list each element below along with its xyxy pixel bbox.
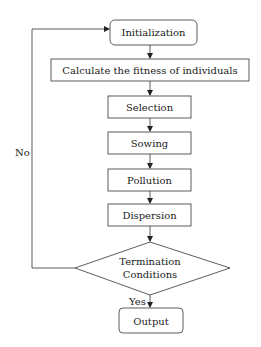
node-sowing-label: Sowing: [131, 138, 169, 149]
node-termination-label-line1: Termination: [119, 256, 181, 267]
node-fitness-label: Calculate the fitness of individuals: [62, 65, 237, 76]
node-selection: Selection: [108, 96, 191, 118]
edge-label-no: No: [15, 147, 30, 158]
edge-label-yes: Yes: [128, 296, 146, 307]
node-dispersion-label: Dispersion: [122, 210, 177, 221]
node-selection-label: Selection: [126, 102, 174, 113]
node-output-label: Output: [133, 316, 169, 327]
node-sowing: Sowing: [108, 132, 191, 154]
node-initialization-label: Initialization: [121, 27, 186, 38]
node-pollution: Pollution: [108, 169, 191, 191]
node-termination: Termination Conditions: [75, 242, 230, 295]
node-dispersion: Dispersion: [108, 204, 191, 226]
node-initialization: Initialization: [110, 20, 197, 45]
node-pollution-label: Pollution: [127, 175, 172, 186]
flowchart: Initialization Calculate the fitness of …: [0, 0, 261, 347]
node-fitness: Calculate the fitness of individuals: [51, 59, 249, 81]
node-output: Output: [119, 308, 183, 333]
node-termination-label-line2: Conditions: [123, 269, 178, 280]
